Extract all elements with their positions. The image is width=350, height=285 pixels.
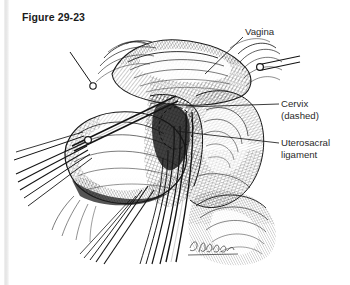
label-uterosacral-line1: Uterosacral [281,137,330,149]
suture-strands [52,196,96,242]
label-uterosacral-ligament: Uterosacral ligament [281,137,330,160]
label-vagina-line1: Vagina [245,26,274,38]
label-cervix-line1: Cervix [281,98,319,110]
label-uterosacral-line2: ligament [281,149,330,161]
probe-upper-left [70,52,96,89]
label-vagina: Vagina [245,26,274,38]
label-cervix: Cervix (dashed) [281,98,319,121]
label-cervix-line2: (dashed) [281,110,319,122]
lower-right-tissue-group [188,184,284,270]
